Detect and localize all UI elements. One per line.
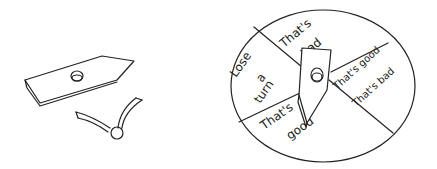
svg-text:Lose: Lose: [227, 49, 254, 80]
spinner-label-lose-a-turn: Lose a turn: [227, 49, 277, 106]
paper-fastener-part: [76, 98, 142, 139]
illustration: Lose a turn That's bad That's good That'…: [0, 0, 437, 169]
spinner-label-thats-good-thats-bad: That's good That's bad: [330, 44, 396, 109]
svg-text:good: good: [284, 114, 317, 143]
spinner-pointer[interactable]: [298, 48, 331, 127]
svg-text:turn: turn: [251, 78, 277, 106]
arrow-pointer-part: [25, 56, 134, 106]
